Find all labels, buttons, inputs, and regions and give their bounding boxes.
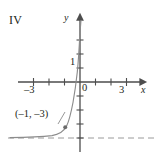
- y-tick-label-one: 1: [70, 57, 75, 68]
- y-axis-label: y: [64, 13, 68, 23]
- plotted-point-marker: [63, 125, 67, 129]
- exponential-curve: [10, 21, 81, 138]
- point-leader-line: [58, 112, 65, 124]
- point-coordinate-label: (–1, –3): [15, 109, 48, 120]
- x-axis-label: x: [141, 85, 145, 95]
- panel-label: IV: [9, 14, 22, 26]
- x-tick-label-three: 3: [119, 85, 124, 96]
- graph-figure: IV y x –3 3 0 1 (–1, –3): [0, 0, 161, 159]
- origin-label: 0: [82, 83, 87, 94]
- x-tick-label-negative-three: –3: [24, 85, 35, 96]
- coordinate-plot: [0, 0, 161, 159]
